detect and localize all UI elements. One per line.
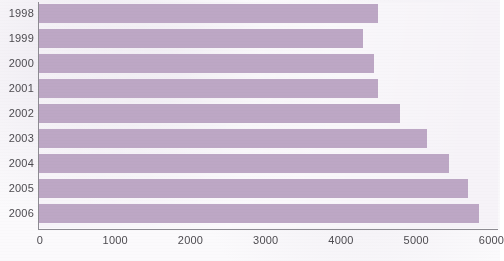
- x-tick-label-0: 0: [37, 234, 43, 246]
- y-tick-label-2002: 2002: [0, 107, 34, 119]
- bar-2002[interactable]: [39, 104, 400, 123]
- bar-2005[interactable]: [39, 179, 468, 198]
- x-tick-label-2000: 2000: [178, 234, 203, 246]
- bar-1999[interactable]: [39, 29, 363, 48]
- bar-2001[interactable]: [39, 79, 378, 98]
- x-tick-label-3000: 3000: [253, 234, 278, 246]
- x-tick-label-5000: 5000: [404, 234, 429, 246]
- y-tick-label-2006: 2006: [0, 207, 34, 219]
- bar-2000[interactable]: [39, 54, 374, 73]
- x-tick-label-4000: 4000: [328, 234, 353, 246]
- y-axis-line: [38, 2, 39, 229]
- x-tick-label-1000: 1000: [103, 234, 128, 246]
- y-tick-label-2003: 2003: [0, 132, 34, 144]
- x-axis-tick-labels: 0100020003000400050006000: [0, 234, 500, 252]
- y-tick-label-2004: 2004: [0, 157, 34, 169]
- y-axis-tick-labels: 199819992000200120022003200420052006: [0, 2, 34, 228]
- bar-2003[interactable]: [39, 129, 427, 148]
- bar-1998[interactable]: [39, 4, 378, 23]
- plot-area: [39, 2, 498, 228]
- bar-2006[interactable]: [39, 204, 479, 223]
- y-tick-label-2005: 2005: [0, 182, 34, 194]
- y-tick-label-1999: 1999: [0, 32, 34, 44]
- x-tick-label-6000: 6000: [479, 234, 504, 246]
- x-axis-line: [38, 229, 498, 230]
- y-tick-label-1998: 1998: [0, 7, 34, 19]
- y-tick-label-2001: 2001: [0, 82, 34, 94]
- bar-2004[interactable]: [39, 154, 449, 173]
- y-tick-label-2000: 2000: [0, 57, 34, 69]
